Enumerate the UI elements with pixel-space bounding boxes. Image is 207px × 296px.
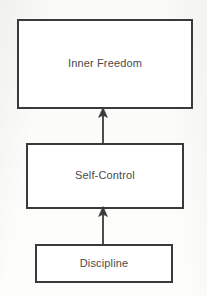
node-discipline[interactable]: Discipline xyxy=(35,244,173,283)
node-self-control-label: Self-Control xyxy=(75,169,135,182)
flowchart-canvas: Inner Freedom Self-Control Discipline xyxy=(0,0,207,296)
node-inner-freedom-label: Inner Freedom xyxy=(68,57,142,70)
arrow-discipline-to-self-control xyxy=(94,206,112,246)
node-inner-freedom[interactable]: Inner Freedom xyxy=(17,19,193,109)
arrow-self-control-to-inner-freedom xyxy=(94,107,112,145)
node-discipline-label: Discipline xyxy=(80,257,129,270)
node-self-control[interactable]: Self-Control xyxy=(26,143,184,209)
